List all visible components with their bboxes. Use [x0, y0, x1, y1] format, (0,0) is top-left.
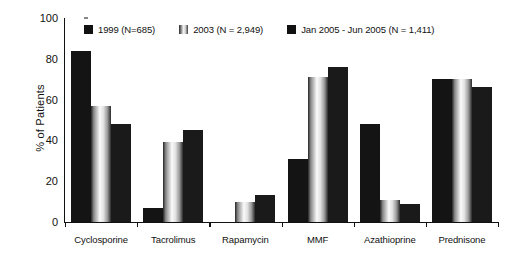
- x-axis-ticks: [65, 222, 498, 228]
- bar: [71, 51, 91, 222]
- bar-group: [65, 18, 137, 222]
- y-tick-label: 40: [24, 134, 58, 146]
- x-axis-category-label: Azathioprine: [354, 234, 426, 245]
- bar: [432, 79, 452, 222]
- x-tick-mark: [209, 222, 210, 227]
- bar-group: [209, 18, 281, 222]
- x-axis-labels: CyclosporineTacrolimusRapamycinMMFAzathi…: [65, 234, 498, 245]
- bar: [380, 200, 400, 222]
- bar: [328, 67, 348, 222]
- bar-group: [426, 18, 498, 222]
- bar: [163, 142, 183, 222]
- y-tick-label: 20: [24, 175, 58, 187]
- bar: [360, 124, 380, 222]
- bar: [308, 77, 328, 222]
- bar-chart: 1999 (N=685) 2003 (N = 2,949) Jan 2005 -…: [0, 0, 506, 270]
- x-axis-category-label: Rapamycin: [209, 234, 281, 245]
- bar: [400, 204, 420, 222]
- x-axis-category-label: Tacrolimus: [137, 234, 209, 245]
- x-axis-category-label: Prednisone: [426, 234, 498, 245]
- bar: [472, 87, 492, 222]
- x-tick-mark: [426, 222, 427, 227]
- y-axis-ticks: 020406080100: [24, 18, 58, 222]
- x-axis-category-label: MMF: [282, 234, 354, 245]
- bar-group: [137, 18, 209, 222]
- x-tick-mark: [282, 222, 283, 227]
- bar-group: [282, 18, 354, 222]
- bar-group: [354, 18, 426, 222]
- bar: [183, 130, 203, 222]
- bar: [111, 124, 131, 222]
- bar: [143, 208, 163, 222]
- x-tick-mark: [498, 222, 499, 227]
- x-tick-mark: [137, 222, 138, 227]
- y-tick-label: 100: [24, 12, 58, 24]
- x-tick-mark: [65, 222, 66, 227]
- x-axis-category-label: Cyclosporine: [65, 234, 137, 245]
- y-tick-label: 80: [24, 53, 58, 65]
- bar: [91, 106, 111, 222]
- bar: [255, 195, 275, 222]
- bar: [288, 159, 308, 222]
- plot-area: [65, 18, 498, 222]
- bar: [452, 79, 472, 222]
- x-tick-mark: [354, 222, 355, 227]
- bar: [235, 202, 255, 222]
- y-tick-label: 0: [24, 216, 58, 228]
- y-tick-label: 60: [24, 94, 58, 106]
